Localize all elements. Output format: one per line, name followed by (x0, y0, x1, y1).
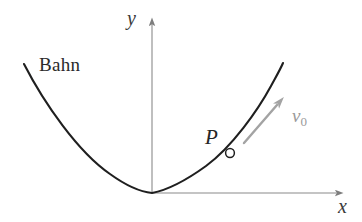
curve-label-bahn: Bahn (39, 55, 80, 74)
x-axis-label: x (338, 196, 347, 216)
point-marker-p (226, 149, 235, 158)
figure-canvas (0, 0, 362, 222)
physics-figure-parabolic-trajectory: y x Bahn P v0 (0, 0, 362, 222)
velocity-label-subscript: 0 (300, 114, 307, 129)
y-axis-label: y (127, 8, 136, 28)
velocity-label-v0: v0 (292, 106, 307, 128)
point-label-p: P (205, 127, 218, 148)
trajectory-curve (24, 63, 283, 193)
velocity-vector-v0 (244, 105, 277, 143)
